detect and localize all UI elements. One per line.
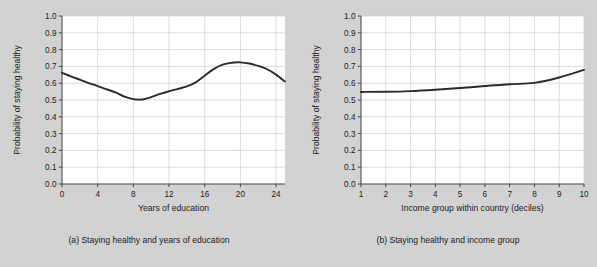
y-axis-tick-label: 0.3 <box>45 130 57 139</box>
y-axis-title: Probability of staying healthy <box>12 45 22 155</box>
y-axis-tick-label: 0.4 <box>45 113 57 122</box>
x-axis-tick-label: 7 <box>507 190 512 199</box>
y-axis-tick-label: 1.0 <box>45 12 57 21</box>
y-axis-tick-label: 0.2 <box>344 146 356 155</box>
x-axis-tick-label: 16 <box>200 190 210 199</box>
y-axis-tick-label: 0.2 <box>45 146 57 155</box>
x-axis-tick-label: 4 <box>433 190 438 199</box>
y-axis-tick-label: 0.8 <box>45 46 57 55</box>
x-axis-tick-label: 10 <box>579 190 589 199</box>
x-axis-tick-label: 8 <box>131 190 136 199</box>
y-axis-tick-label: 0.0 <box>344 180 356 189</box>
y-axis-tick-label: 0.4 <box>344 113 356 122</box>
x-axis-tick-label: 2 <box>383 190 388 199</box>
x-axis-title: Income group within country (deciles) <box>401 203 543 213</box>
y-axis-tick-label: 1.0 <box>344 12 356 21</box>
y-axis-title: Probability of staying healthy <box>311 45 321 155</box>
x-axis-tick-label: 20 <box>236 190 246 199</box>
y-axis-tick-label: 0.9 <box>344 29 356 38</box>
y-axis-tick-label: 0.0 <box>45 180 57 189</box>
y-axis-tick-label: 0.9 <box>45 29 57 38</box>
chart-a-svg: 0.00.10.20.30.40.50.60.70.80.91.00481216… <box>0 0 298 267</box>
x-axis-tick-label: 6 <box>483 190 488 199</box>
x-axis-title: Years of education <box>138 203 209 213</box>
y-axis-tick-label: 0.3 <box>344 130 356 139</box>
x-axis-tick-label: 1 <box>359 190 364 199</box>
x-axis-tick-label: 3 <box>408 190 413 199</box>
y-axis-tick-label: 0.1 <box>45 163 57 172</box>
y-axis-tick-label: 0.8 <box>344 46 356 55</box>
y-axis-tick-label: 0.1 <box>344 163 356 172</box>
x-axis-tick-label: 5 <box>458 190 463 199</box>
y-axis-tick-label: 0.6 <box>45 79 57 88</box>
y-axis-tick-label: 0.7 <box>344 62 356 71</box>
panel-caption-a: (a) Staying healthy and years of educati… <box>69 235 230 245</box>
figure-root: 0.00.10.20.30.40.50.60.70.80.91.00481216… <box>0 0 597 267</box>
y-axis-tick-label: 0.5 <box>344 96 356 105</box>
panel-caption-b: (b) Staying healthy and income group <box>377 235 520 245</box>
x-axis-tick-label: 8 <box>532 190 537 199</box>
x-axis-tick-label: 12 <box>164 190 174 199</box>
y-axis-tick-label: 0.7 <box>45 62 57 71</box>
y-axis-tick-label: 0.6 <box>344 79 356 88</box>
x-axis-tick-label: 24 <box>272 190 282 199</box>
chart-b-svg: 0.00.10.20.30.40.50.60.70.80.91.01234567… <box>299 0 597 267</box>
x-axis-tick-label: 4 <box>95 190 100 199</box>
x-axis-tick-label: 0 <box>60 190 65 199</box>
x-axis-tick-label: 9 <box>557 190 562 199</box>
panel-a: 0.00.10.20.30.40.50.60.70.80.91.00481216… <box>0 0 298 267</box>
y-axis-tick-label: 0.5 <box>45 96 57 105</box>
panel-b: 0.00.10.20.30.40.50.60.70.80.91.01234567… <box>299 0 597 267</box>
